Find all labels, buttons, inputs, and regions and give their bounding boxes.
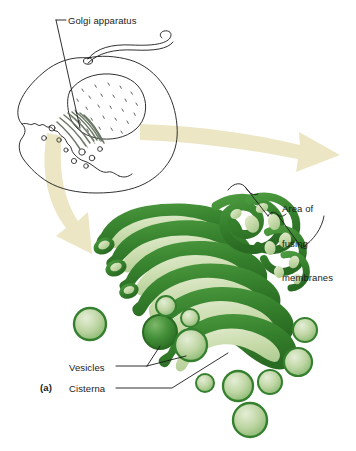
label-area-of-fusing-membranes-line1: Area of	[282, 203, 333, 215]
golgi-apparatus-figure: Golgi apparatus Area of fusing membranes…	[0, 0, 356, 451]
vesicle	[196, 374, 214, 392]
vesicle	[284, 348, 312, 376]
label-cisterna: Cisterna	[69, 383, 105, 395]
label-area-of-fusing-membranes-line3: membranes	[282, 272, 333, 284]
vesicle	[258, 370, 282, 394]
label-area-of-fusing-membranes-line2: fusing	[282, 238, 333, 250]
panel-letter: (a)	[40, 382, 52, 394]
vesicle	[175, 329, 207, 361]
vesicle	[293, 318, 317, 342]
vesicle	[233, 403, 267, 437]
vesicle	[143, 315, 177, 349]
label-golgi-apparatus: Golgi apparatus	[68, 15, 137, 27]
label-area-of-fusing-membranes: Area of fusing membranes	[282, 180, 333, 307]
vesicle	[181, 309, 199, 327]
vesicle	[156, 296, 176, 316]
vesicle	[74, 308, 106, 340]
vesicle	[223, 371, 253, 401]
label-vesicles: Vesicles	[69, 362, 105, 374]
